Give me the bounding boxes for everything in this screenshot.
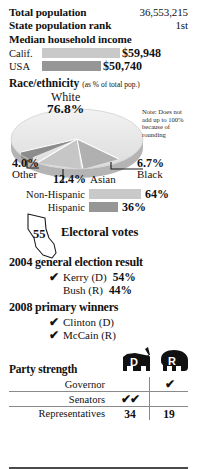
income-bar-row-calif: Calif. $59,948 (9, 47, 188, 59)
hispanic-bar-label: Non-Hispanic (9, 189, 89, 200)
electoral-votes-label: Electoral votes (61, 225, 138, 240)
pie-label-asian: 12.4% Asian (53, 172, 116, 185)
income-bar-label: USA (9, 61, 42, 72)
party-mascot-icons: D R (119, 345, 193, 377)
row-label: Senators (9, 392, 111, 407)
primary-winner-row-clinton: ✔ Clinton (D) (9, 316, 188, 328)
hispanic-bar-row-non-hispanic: Non-Hispanic 64% (9, 188, 188, 200)
table-row: Senators ✔✔ (9, 392, 188, 407)
row-label: Representatives (9, 407, 111, 421)
electoral-votes-section: 55 Electoral votes (9, 215, 188, 257)
stat-row-total-population: Total population 36,553,215 (9, 6, 188, 18)
primary-winners-heading: 2008 primary winners (9, 300, 188, 315)
state-fact-panel: Total population 36,553,215 State popula… (0, 6, 197, 469)
svg-text:D: D (130, 356, 138, 368)
pie-chart-note: Note: Does not add up to 100% because of… (142, 108, 188, 138)
income-bar-label: Calif. (9, 48, 42, 59)
pie-label-other: 4.0% Other (12, 156, 39, 180)
row-value-d: 34 (111, 407, 150, 421)
pie-label-pct: 76.8% (47, 103, 84, 114)
party-strength-table: Governor ✔ Senators ✔✔ Representatives 3… (9, 377, 188, 420)
row-label: Governor (9, 377, 111, 392)
row-value-r (150, 392, 189, 407)
party-strength-heading: Party strength (9, 363, 77, 375)
income-bar-track: $50,740 (42, 61, 188, 71)
party-strength-section: Party strength D R Governor ✔ Senators ✔ (9, 347, 188, 419)
general-election-row-kerry: ✔ Kerry (D) 54% (9, 271, 188, 283)
svg-text:R: R (168, 355, 176, 367)
pie-label-name: Black (137, 169, 164, 180)
table-row: Governor ✔ (9, 377, 188, 392)
income-bar-row-usa: USA $50,740 (9, 60, 188, 72)
candidate-name: Bush (R) (63, 284, 103, 296)
row-value-d: ✔✔ (111, 392, 150, 407)
stat-value: 36,553,215 (139, 6, 188, 18)
income-bar-track: $59,948 (42, 48, 188, 58)
primary-winner-row-mccain: ✔ McCain (R) (9, 329, 188, 341)
race-pie-chart: Note: Does not add up to 100% because of… (9, 90, 188, 187)
electoral-votes-count: 55 (33, 227, 46, 242)
pie-label-white: White 76.8% (47, 92, 84, 114)
stat-row-population-rank: State population rank 1st (9, 19, 188, 31)
candidate-pct: 44% (109, 284, 132, 296)
stat-label: State population rank (9, 19, 111, 31)
row-value-d (111, 377, 150, 392)
check-icon: ✔ (49, 272, 63, 283)
table-row: Representatives 34 19 (9, 407, 188, 421)
pie-label-name: Other (12, 169, 39, 180)
race-ethnicity-title: Race/ethnicity (9, 77, 79, 89)
hispanic-bar-value: 64% (145, 187, 169, 202)
pie-label-name: Asian (90, 173, 116, 185)
hispanic-split-bars: Non-Hispanic 64% Hispanic 36% (9, 188, 188, 213)
pie-label-black: 6.7% Black (137, 156, 164, 180)
general-election-row-bush: Bush (R) 44% (9, 284, 188, 296)
race-ethnicity-heading: Race/ethnicity (as % of total pop.) (9, 77, 188, 89)
stat-label: Total population (9, 6, 86, 18)
median-income-bars: Calif. $59,948 USA $50,740 (9, 47, 188, 72)
hispanic-bar-value: 36% (122, 200, 146, 215)
row-value-r: ✔ (150, 377, 189, 392)
income-bar-fill (42, 61, 101, 71)
hispanic-bar-track: 36% (89, 202, 188, 212)
hispanic-bar-track: 64% (89, 189, 188, 199)
candidate-pct: 54% (113, 271, 136, 283)
candidate-name: Clinton (D) (63, 316, 114, 328)
candidate-name: McCain (R) (63, 329, 116, 341)
race-ethnicity-subtitle: (as % of total pop.) (82, 80, 140, 89)
median-income-heading: Median household income (9, 33, 188, 45)
pie-label-pct: 12.4% (53, 172, 86, 186)
stat-value: 1st (175, 19, 188, 31)
income-bar-value: $50,740 (103, 59, 142, 74)
row-value-r: 19 (150, 407, 189, 421)
hispanic-bar-fill (89, 202, 118, 212)
check-icon: ✔ (49, 317, 63, 328)
income-bar-fill (42, 48, 120, 58)
candidate-name: Kerry (D) (63, 271, 107, 283)
hispanic-bar-fill (89, 189, 141, 199)
check-icon: ✔ (49, 330, 63, 341)
